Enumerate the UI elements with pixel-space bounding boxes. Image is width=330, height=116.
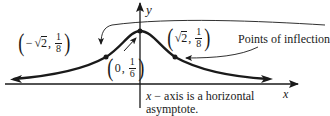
open-paren: ( [18,30,24,56]
radicand: 2 [41,36,47,50]
denominator: 8 [56,44,61,55]
separator: , [122,61,125,76]
asymptote-annotation-line1: x − axis is a horizontal [146,90,254,102]
asymptote-annotation-line2: asymptote. [146,103,198,115]
numerator: 1 [129,57,136,69]
max-point-marker [138,29,143,34]
numerator: 1 [195,27,202,39]
right-inflection-marker [173,55,178,60]
left-inflection-label: ( − √2 , 1 8 ) [17,30,72,56]
close-paren: ) [138,55,144,81]
close-paren: ) [205,25,211,51]
x-value: 0 [115,61,121,76]
x-axis-label: x [283,88,288,100]
sqrt-value: √2 [34,36,47,51]
close-paren: ) [64,30,70,56]
radical-icon: √ [34,36,41,51]
asymptote-text: − axis is a horizontal [151,89,254,103]
open-paren: ( [107,55,113,81]
denominator: 6 [130,69,135,80]
right-inflection-label: ( √2 , 1 8 ) [166,25,212,51]
radical-icon: √ [175,31,182,46]
y-fraction: 1 8 [55,32,62,54]
sign: − [26,36,33,51]
y-axis-label: y [146,3,152,16]
y-fraction: 1 8 [195,27,202,49]
separator: , [188,31,191,46]
sqrt-value: √2 [175,31,188,46]
separator: , [48,36,51,51]
y-fraction: 1 6 [129,57,136,79]
denominator: 8 [196,39,201,50]
radicand: 2 [181,31,187,45]
inflection-annotation: Points of inflection [238,33,330,45]
open-paren: ( [167,25,173,51]
max-point-label: ( 0 , 1 6 ) [106,55,145,81]
numerator: 1 [55,32,62,44]
